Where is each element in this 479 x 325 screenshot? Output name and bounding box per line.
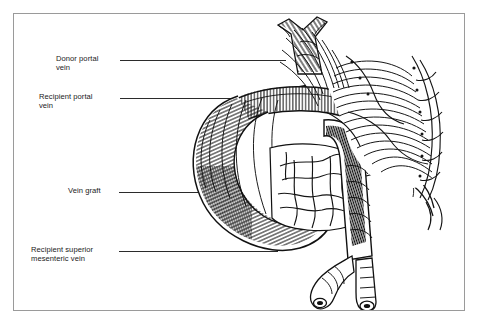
illustration-ink xyxy=(176,16,450,310)
anatomical-illustration xyxy=(176,16,464,310)
label-donor-portal-vein: Donor portal vein xyxy=(56,54,98,73)
smv-bifurcation-cut-ends xyxy=(311,256,376,310)
label-recipient-superior-mesenteric-vein: Recipient superior mesenteric vein xyxy=(31,245,93,264)
figure-root: Donor portal vein Recipient portal vein … xyxy=(0,0,479,325)
label-vein-graft: Vein graft xyxy=(68,186,101,195)
label-recipient-portal-vein: Recipient portal vein xyxy=(39,92,93,111)
